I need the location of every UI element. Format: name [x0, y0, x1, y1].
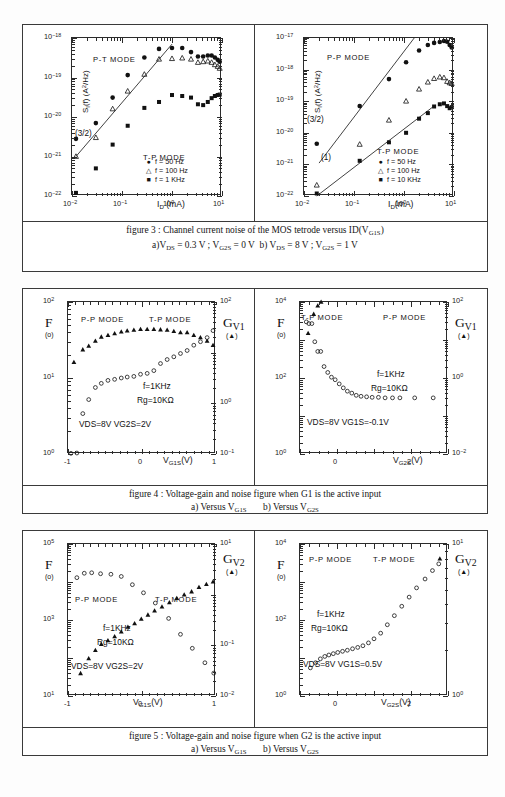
x-tick: [393, 193, 394, 196]
y-tick: [304, 155, 307, 156]
y-tick: [219, 47, 222, 48]
x-tick: [164, 544, 165, 547]
data-point: [159, 362, 163, 366]
y-tick-right: [213, 430, 216, 431]
x-tick: [402, 693, 403, 696]
figure-3-caption-line2: a)VDS = 0.3 V ; VG2S = 0 V b) VDS = 8 V …: [152, 240, 358, 250]
x-tick: [157, 38, 158, 41]
x-tick: [328, 302, 329, 305]
y-tick-left: [300, 571, 303, 572]
y-tick-left: [300, 355, 303, 356]
y-tick-left: [68, 673, 71, 674]
x-tick: [137, 193, 138, 196]
x-tick: [334, 193, 335, 196]
legend-marker-icon: ●: [377, 157, 384, 166]
data-point: [323, 655, 327, 659]
x-tick-label: 10−1: [113, 199, 127, 208]
data-point: [125, 375, 129, 379]
y-tick-label: 10−19: [44, 72, 61, 81]
data-point: [407, 595, 411, 599]
y-tick-left: [300, 340, 305, 341]
mode-label: T-P MODE: [373, 555, 415, 564]
x-tick: [142, 544, 143, 549]
data-point: [82, 571, 86, 575]
x-tick: [374, 449, 375, 454]
y-tick-left: [300, 342, 303, 343]
x-tick: [102, 38, 103, 41]
data-point: [90, 571, 94, 575]
x-tick: [120, 693, 121, 696]
y-tick: [219, 40, 222, 41]
x-tick: [149, 693, 150, 696]
data-point: [178, 330, 183, 334]
y-tick: [304, 108, 307, 109]
y-tick-right: [213, 653, 216, 654]
y-tick: [219, 59, 222, 60]
y-tick-label-right: 10−2: [220, 690, 234, 699]
x-tick: [142, 302, 143, 307]
y-tick: [304, 169, 307, 170]
data-point: [438, 102, 442, 106]
y-tick-right: [445, 393, 448, 394]
data-point: [86, 656, 91, 660]
legend-marker-icon: ■: [145, 175, 152, 184]
y-tick: [72, 196, 77, 197]
x-tick: [420, 693, 421, 696]
data-point: [437, 562, 441, 566]
y-tick: [72, 98, 75, 99]
fig3b-legend: ●f = 50 Hz△f = 100 Hz■f = 10 KHz: [377, 157, 421, 184]
y-tick-right: [443, 378, 448, 379]
x-tick: [157, 451, 158, 454]
plot-annotation: f=1KHz: [317, 609, 345, 619]
x-tick: [207, 193, 208, 196]
y-tick: [72, 119, 75, 120]
y-tick-left: [300, 582, 305, 583]
y-axis-title: SI(f) (A2/Hz): [313, 70, 323, 113]
y-tick: [219, 160, 222, 161]
figure-5-caption: figure 5 : Voltage-gain and noise figure…: [23, 727, 487, 761]
y-tick-left: [300, 310, 303, 311]
data-point: [370, 395, 374, 399]
y-tick: [304, 82, 307, 83]
x-tick: [186, 693, 187, 696]
y-tick: [304, 39, 307, 40]
x-tick: [179, 693, 180, 696]
y-tick-left: [300, 555, 303, 556]
y-tick: [72, 157, 77, 158]
fig4b-data-layer: [300, 302, 448, 454]
x-tick: [164, 693, 165, 696]
y-tick-left: [68, 640, 71, 641]
x-tick: [120, 38, 121, 41]
y-tick: [219, 44, 222, 45]
y-tick-left: [68, 385, 71, 386]
y-tick-right: [211, 645, 216, 646]
data-point: [314, 141, 319, 146]
y-tick: [72, 105, 75, 106]
y-tick-right: [445, 386, 448, 387]
y-tick-right: [445, 551, 448, 552]
y-tick-right: [213, 388, 216, 389]
x-tick: [120, 451, 121, 454]
y-tick-right: [445, 389, 448, 390]
x-tick: [343, 193, 344, 196]
y-tick-left: [68, 602, 71, 603]
figure-4-caption-line1: figure 4 : Voltage-gain and noise figure…: [129, 489, 381, 499]
y-tick-right: [445, 422, 448, 423]
y-tick: [72, 50, 75, 51]
y-tick-right: [213, 364, 216, 365]
x-tick: [222, 38, 223, 43]
y-tick-right: [213, 549, 216, 550]
y-tick-right: [213, 368, 216, 369]
data-point: [119, 376, 123, 380]
y-tick: [304, 138, 307, 139]
x-tick: [419, 38, 420, 41]
data-point: [119, 329, 124, 333]
data-point: [327, 653, 331, 657]
data-point: [132, 621, 137, 625]
y-tick-left: [300, 431, 303, 432]
y-tick-right: [445, 367, 448, 368]
slope-annotation: (3/2): [307, 115, 324, 124]
y-tick: [449, 164, 454, 165]
y-tick-left: [300, 344, 303, 345]
y-tick-left: [300, 360, 303, 361]
